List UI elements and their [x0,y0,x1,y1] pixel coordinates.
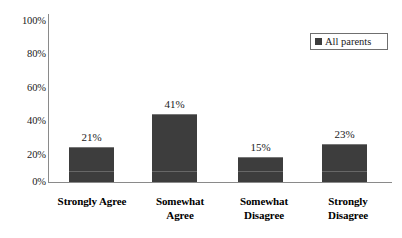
y-axis-tick-0: 0% [2,176,46,187]
category-line-1: Strongly Agree [44,195,140,209]
bar-value-label-somewhat-agree: 41% [152,98,197,110]
chart-legend: All parents [310,33,388,50]
legend-swatch-icon [315,38,322,45]
x-axis-line [48,182,392,183]
bar-strongly-agree [69,147,114,182]
category-line-2: Disagree [222,209,306,223]
y-axis-tick-80: 80% [2,48,46,59]
bar-chart: 100% 80% 60% 40% 20% 0% 21% 41% 15% 23% … [0,0,402,238]
category-line-2: Agree [140,209,220,223]
y-axis-line [48,14,49,183]
y-axis-tick-100: 100% [2,15,46,26]
bar-value-label-strongly-disagree: 23% [322,128,367,140]
category-line-1: Somewhat [140,195,220,209]
category-line-1: Strongly [308,195,388,209]
y-axis-tick-40: 40% [2,115,46,126]
bar-value-label-somewhat-disagree: 15% [238,141,283,153]
bar-strongly-disagree [322,144,367,182]
legend-label-all-parents: All parents [325,36,371,47]
category-line-1: Somewhat [222,195,306,209]
category-line-2: Disagree [308,209,388,223]
x-axis-category-somewhat-agree: Somewhat Agree [140,195,220,222]
x-axis-category-strongly-agree: Strongly Agree [44,195,140,209]
y-axis-tick-20: 20% [2,149,46,160]
x-axis-category-strongly-disagree: Strongly Disagree [308,195,388,222]
bar-value-label-strongly-agree: 21% [69,131,114,143]
bar-somewhat-agree [152,114,197,182]
y-axis-tick-60: 60% [2,82,46,93]
x-axis-category-somewhat-disagree: Somewhat Disagree [222,195,306,222]
bar-somewhat-disagree [238,157,283,182]
